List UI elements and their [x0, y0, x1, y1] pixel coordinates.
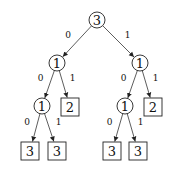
node-label: 2 [149, 100, 157, 115]
edge-label: 0 [121, 73, 127, 83]
edge-arrow [59, 71, 67, 98]
internal-node: 1 [132, 55, 148, 71]
edge-arrow [45, 71, 55, 98]
edge-label: 1 [138, 117, 144, 127]
edge-label: 0 [24, 117, 30, 127]
edge-label: 0 [65, 30, 71, 40]
edge-arrow [33, 114, 40, 142]
leaf-node: 3 [48, 142, 66, 160]
node-label: 3 [108, 144, 116, 159]
leaf-node: 3 [129, 142, 147, 160]
leaf-node: 2 [61, 98, 79, 116]
edge-arrow [142, 71, 150, 98]
node-label: 3 [53, 144, 61, 159]
internal-node: 1 [34, 98, 50, 114]
edge-arrow [128, 71, 138, 98]
node-label: 1 [53, 56, 61, 71]
node-label: 2 [66, 100, 74, 115]
node-label: 1 [136, 56, 144, 71]
edge-arrow [115, 114, 123, 142]
node-label: 3 [134, 144, 142, 159]
edge-label: 1 [70, 73, 76, 83]
edge-label: 0 [107, 117, 113, 127]
leaf-node: 3 [21, 142, 39, 160]
node-label: 1 [38, 99, 46, 114]
node-label: 1 [121, 99, 129, 114]
leaf-node: 2 [144, 98, 162, 116]
edge-arrow [127, 114, 135, 142]
edge-label: 1 [56, 117, 62, 127]
edge-label: 1 [125, 30, 131, 40]
tree-diagram: 0101010101 31112123333 [0, 0, 169, 169]
edge-arrow [45, 114, 54, 142]
edge-label: 0 [38, 73, 44, 83]
node-label: 3 [26, 144, 34, 159]
internal-node: 1 [49, 55, 65, 71]
node-label: 3 [93, 13, 101, 28]
internal-node: 1 [117, 98, 133, 114]
internal-node: 3 [89, 12, 105, 28]
edge-label: 1 [153, 73, 159, 83]
leaf-node: 3 [103, 142, 121, 160]
tree-svg: 0101010101 31112123333 [0, 0, 169, 169]
